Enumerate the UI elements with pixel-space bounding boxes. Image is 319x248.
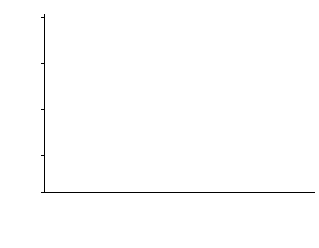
dendrogram-figure xyxy=(0,0,319,248)
dendrogram-plot-area xyxy=(44,14,316,193)
y-axis-title xyxy=(10,35,22,165)
